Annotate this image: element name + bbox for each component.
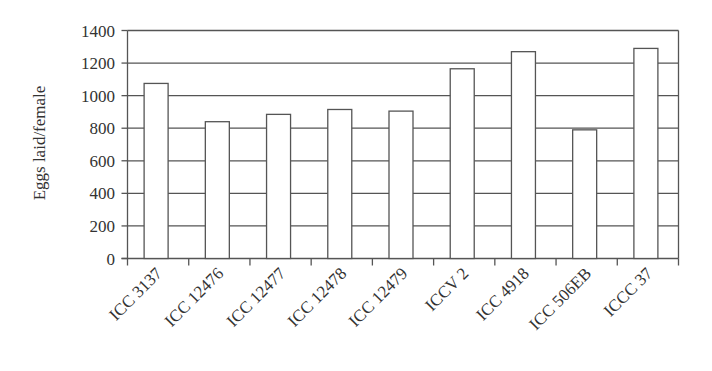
y-tick-label: 200 — [90, 217, 116, 234]
bar-icc-3137 — [144, 83, 168, 258]
bar-icc-12479 — [389, 111, 413, 258]
y-tick-label: 1000 — [81, 87, 115, 104]
bar-icc-4918 — [511, 52, 535, 259]
bar-icc-506eb — [573, 130, 597, 259]
bar-iccv-2 — [450, 69, 474, 259]
bar-iccc-37 — [634, 48, 658, 258]
y-tick-label: 1200 — [81, 55, 115, 72]
y-tick-label: 1400 — [81, 22, 115, 39]
y-tick-label: 600 — [90, 152, 116, 169]
bar-icc-12476 — [205, 122, 229, 259]
y-tick-label: 400 — [90, 185, 116, 202]
y-axis-label: Eggs laid/female — [30, 86, 50, 201]
y-tick-label: 800 — [90, 120, 116, 137]
bar-chart: Eggs laid/female 02004006008001000120014… — [0, 0, 712, 371]
bar-icc-12477 — [267, 114, 291, 258]
bar-icc-12478 — [328, 109, 352, 258]
y-tick-label: 0 — [107, 250, 116, 267]
